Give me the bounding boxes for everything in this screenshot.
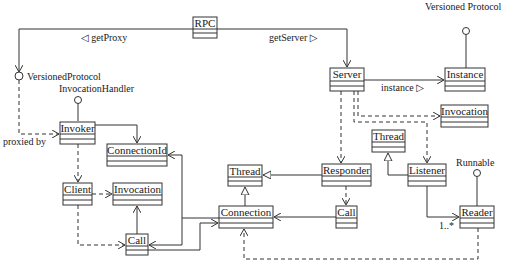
class-client[interactable]: Client: [63, 183, 92, 205]
class-call-server-name: Call: [337, 206, 355, 218]
class-server[interactable]: Server: [330, 68, 364, 91]
class-invocation-server-name: Invocation: [441, 105, 489, 117]
edge-invoker-connectionid: [95, 125, 137, 143]
interface-invocationhandler-label: InvocationHandler: [59, 83, 135, 94]
class-invocation-client-name: Invocation: [114, 183, 162, 195]
label-getproxy: ◁ getProxy: [81, 32, 127, 43]
interface-versionedprotocol-right-icon: [463, 28, 470, 35]
class-invocation-client[interactable]: Invocation: [113, 183, 162, 205]
edge-listener-reader: [427, 186, 459, 217]
interface-runnable-label: Runnable: [456, 157, 495, 168]
uml-class-diagram: VersionedProtocol InvocationHandler Vers…: [0, 0, 506, 272]
interface-invocationhandler-icon: [75, 97, 82, 104]
class-invoker[interactable]: Invoker: [60, 122, 95, 144]
edge-listener-thread: [388, 153, 408, 175]
class-client-name: Client: [64, 183, 91, 195]
class-instance-name: Instance: [447, 68, 484, 80]
class-server-name: Server: [333, 68, 362, 80]
interface-versionedprotocol-right-label: Versioned Protocol: [425, 1, 502, 12]
edge-connection-call: [149, 218, 182, 245]
interface-runnable-icon: [474, 170, 481, 177]
edge-client-call: [78, 205, 125, 245]
class-call-client-name: Call: [128, 234, 146, 246]
edge-clientcall-connection: [148, 223, 218, 250]
class-thread-connection[interactable]: Thread: [228, 165, 262, 186]
class-instance[interactable]: Instance: [445, 68, 485, 91]
class-listener[interactable]: Listener: [408, 164, 446, 186]
class-invoker-name: Invoker: [60, 122, 95, 134]
class-rpc-name: RPC: [195, 17, 216, 29]
edge-reader-connection: [244, 228, 478, 259]
label-proxied-by: proxied by: [3, 136, 46, 147]
class-invocation-server[interactable]: Invocation: [441, 105, 489, 127]
class-connection[interactable]: Connection: [219, 206, 273, 228]
interface-versionedprotocol-left-icon: [15, 72, 23, 80]
class-connection-name: Connection: [221, 206, 272, 218]
class-call-client[interactable]: Call: [126, 234, 148, 255]
class-responder-name: Responder: [323, 164, 370, 176]
class-connectionid-name: ConnectionId: [107, 144, 167, 156]
label-getserver: getServer ▷: [269, 32, 318, 43]
class-thread-listener-name: Thread: [373, 130, 405, 142]
edge-versionedprotocol-invoker: [19, 80, 59, 134]
class-thread-listener[interactable]: Thread: [372, 130, 405, 152]
class-thread-connection-name: Thread: [229, 165, 261, 177]
class-responder[interactable]: Responder: [322, 164, 371, 186]
interface-versionedprotocol-left-label: VersionedProtocol: [27, 71, 101, 82]
interfaces: VersionedProtocol InvocationHandler Vers…: [15, 1, 502, 177]
label-multiplicity: 1..*: [439, 220, 454, 231]
edge-connection-connectionid: [168, 155, 182, 218]
class-reader[interactable]: Reader: [460, 206, 494, 228]
edge-server-invocation: [358, 91, 440, 116]
label-instance: instance ▷: [381, 82, 424, 93]
class-listener-name: Listener: [409, 164, 445, 176]
class-connectionid[interactable]: ConnectionId: [107, 144, 167, 166]
class-call-server[interactable]: Call: [336, 206, 357, 228]
class-rpc[interactable]: RPC: [193, 17, 217, 38]
class-reader-name: Reader: [461, 206, 492, 218]
